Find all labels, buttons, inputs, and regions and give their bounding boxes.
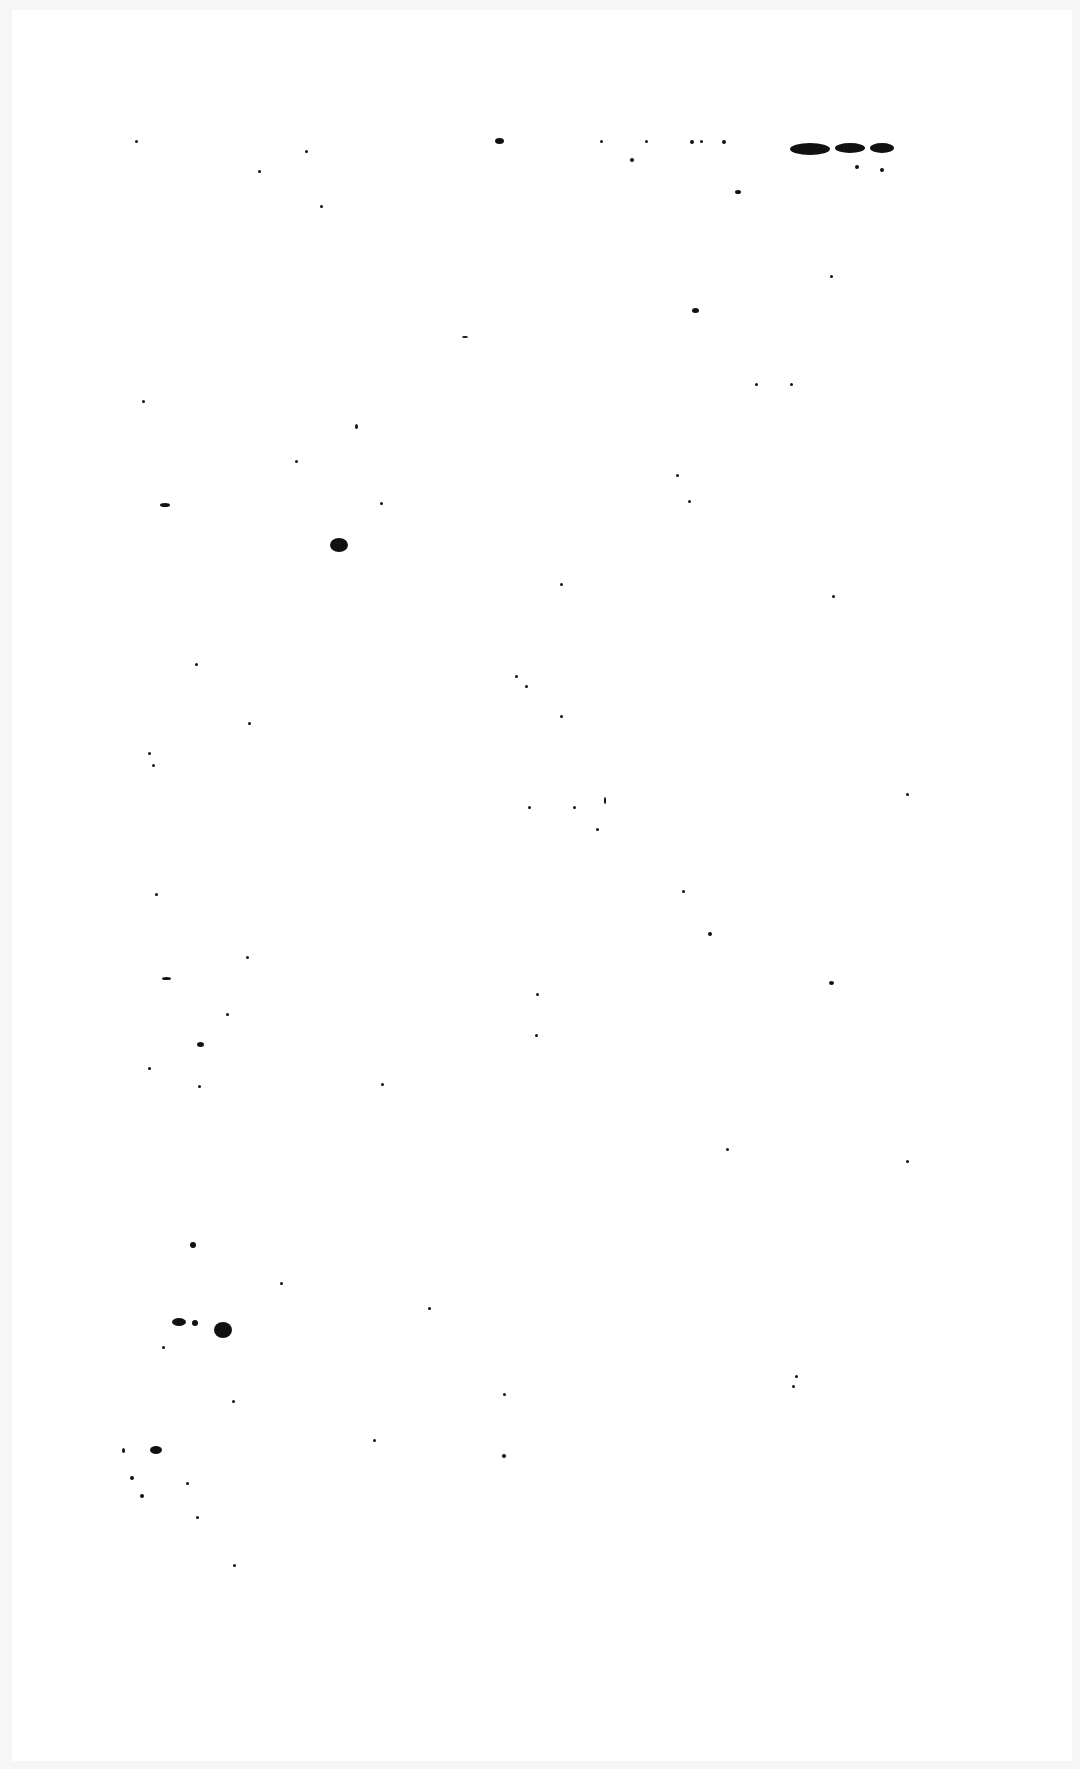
scan-noise-speck <box>495 138 504 144</box>
scan-noise-speck <box>142 400 145 403</box>
scan-noise-speck <box>722 140 726 144</box>
scan-noise-speck <box>790 143 830 155</box>
scan-noise-speck <box>573 806 576 809</box>
scan-noise-speck <box>248 722 251 725</box>
scan-noise-speck <box>320 205 323 208</box>
scan-noise-speck <box>196 1516 199 1519</box>
scan-noise-speck <box>258 170 261 173</box>
scan-noise-speck <box>190 1242 196 1248</box>
scan-noise-speck <box>515 675 518 678</box>
scan-noise-speck <box>535 1034 538 1037</box>
scan-noise-speck <box>130 1476 134 1480</box>
scan-noise-speck <box>148 1067 151 1070</box>
scan-noise-speck <box>330 538 348 552</box>
scan-noise-speck <box>162 1346 165 1349</box>
scan-noise-speck <box>528 806 531 809</box>
scan-noise-speck <box>195 663 198 666</box>
scan-noise-speck <box>604 797 606 804</box>
scan-noise-speck <box>700 140 703 143</box>
scan-noise-speck <box>596 828 599 831</box>
scan-noise-speck <box>835 143 865 153</box>
scan-noise-speck <box>503 1393 506 1396</box>
scan-noise-speck <box>160 503 170 507</box>
scanned-document-page <box>12 10 1072 1761</box>
scan-noise-speck <box>122 1448 125 1453</box>
scan-noise-speck <box>192 1320 198 1326</box>
scan-noise-speck <box>226 1013 229 1016</box>
scan-noise-speck <box>502 1454 506 1458</box>
scan-noise-speck <box>560 583 563 586</box>
scan-noise-speck <box>870 143 894 153</box>
scan-noise-speck <box>152 764 155 767</box>
scan-noise-speck <box>233 1564 236 1567</box>
scan-noise-speck <box>560 715 563 718</box>
scan-noise-speck <box>690 140 694 144</box>
scan-noise-speck <box>155 893 158 896</box>
scan-noise-speck <box>380 502 383 505</box>
scan-noise-speck <box>198 1085 201 1088</box>
scan-noise-speck <box>373 1439 376 1442</box>
scan-noise-speck <box>692 308 699 313</box>
scan-noise-speck <box>140 1494 144 1498</box>
scan-noise-speck <box>150 1446 162 1454</box>
scan-noise-speck <box>536 993 539 996</box>
scan-noise-speck <box>630 158 634 162</box>
scan-noise-speck <box>645 140 648 143</box>
scan-noise-speck <box>676 474 679 477</box>
scan-noise-speck <box>790 383 793 386</box>
scan-noise-speck <box>708 932 712 936</box>
scan-noise-speck <box>906 793 909 796</box>
scan-noise-speck <box>600 140 603 143</box>
scan-noise-speck <box>688 500 691 503</box>
scan-noise-speck <box>280 1282 283 1285</box>
scan-noise-speck <box>682 890 685 893</box>
scan-noise-speck <box>726 1148 729 1151</box>
scan-noise-speck <box>832 595 835 598</box>
scan-noise-speck <box>148 752 151 755</box>
scan-noise-speck <box>735 190 741 194</box>
scan-noise-speck <box>186 1482 189 1485</box>
scan-noise-speck <box>305 150 308 153</box>
scan-noise-speck <box>830 275 833 278</box>
scan-noise-speck <box>829 981 834 985</box>
scan-noise-speck <box>792 1385 795 1388</box>
scan-noise-speck <box>172 1318 186 1326</box>
scan-noise-speck <box>795 1375 798 1378</box>
scan-noise-speck <box>135 140 138 143</box>
scan-noise-speck <box>462 336 468 338</box>
scan-noise-speck <box>162 977 171 980</box>
scan-noise-speck <box>214 1322 232 1338</box>
scan-noise-speck <box>232 1400 235 1403</box>
scan-noise-speck <box>355 424 358 429</box>
scan-noise-speck <box>855 165 859 169</box>
scan-noise-speck <box>906 1160 909 1163</box>
scan-noise-speck <box>295 460 298 463</box>
scan-noise-speck <box>246 956 249 959</box>
scan-noise-speck <box>755 383 758 386</box>
scan-noise-speck <box>428 1307 431 1310</box>
scan-noise-speck <box>525 685 528 688</box>
scan-noise-speck <box>880 168 884 172</box>
scan-noise-speck <box>381 1083 384 1086</box>
scan-noise-speck <box>197 1042 204 1047</box>
